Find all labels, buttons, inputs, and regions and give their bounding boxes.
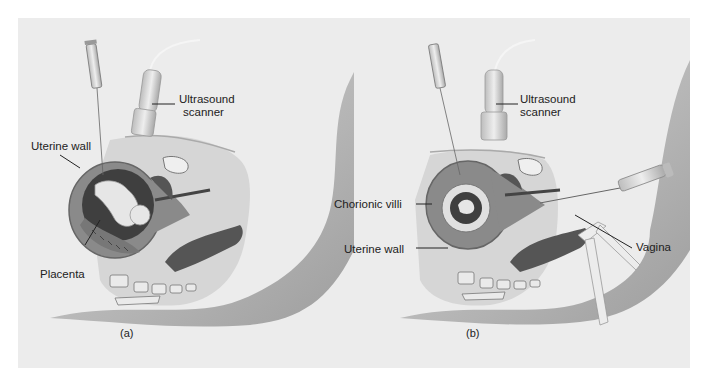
ultrasound-probe-b xyxy=(481,40,535,140)
label-placenta: Placenta xyxy=(40,268,85,281)
label-chorionic-villi: Chorionic villi xyxy=(334,198,402,211)
caption-b: (b) xyxy=(466,327,479,339)
syringe-a xyxy=(84,39,103,175)
panel-a-drawing xyxy=(50,39,354,326)
label-line: scanner xyxy=(520,106,576,119)
ultrasound-probe-a xyxy=(131,40,200,137)
label-line: scanner xyxy=(179,106,235,119)
illustration xyxy=(0,0,708,378)
label-line: Ultrasound xyxy=(179,93,235,106)
panel-b-drawing xyxy=(400,40,690,325)
label-ultrasound-scanner-a: Ultrasound scanner xyxy=(179,93,235,119)
label-vagina: Vagina xyxy=(636,241,671,254)
catheter-syringe xyxy=(540,162,674,203)
label-uterine-wall-a: Uterine wall xyxy=(31,140,91,153)
label-ultrasound-scanner-b: Ultrasound scanner xyxy=(520,93,576,119)
label-uterine-wall-b: Uterine wall xyxy=(344,243,404,256)
label-line: Ultrasound xyxy=(520,93,576,106)
caption-a: (a) xyxy=(120,327,133,339)
